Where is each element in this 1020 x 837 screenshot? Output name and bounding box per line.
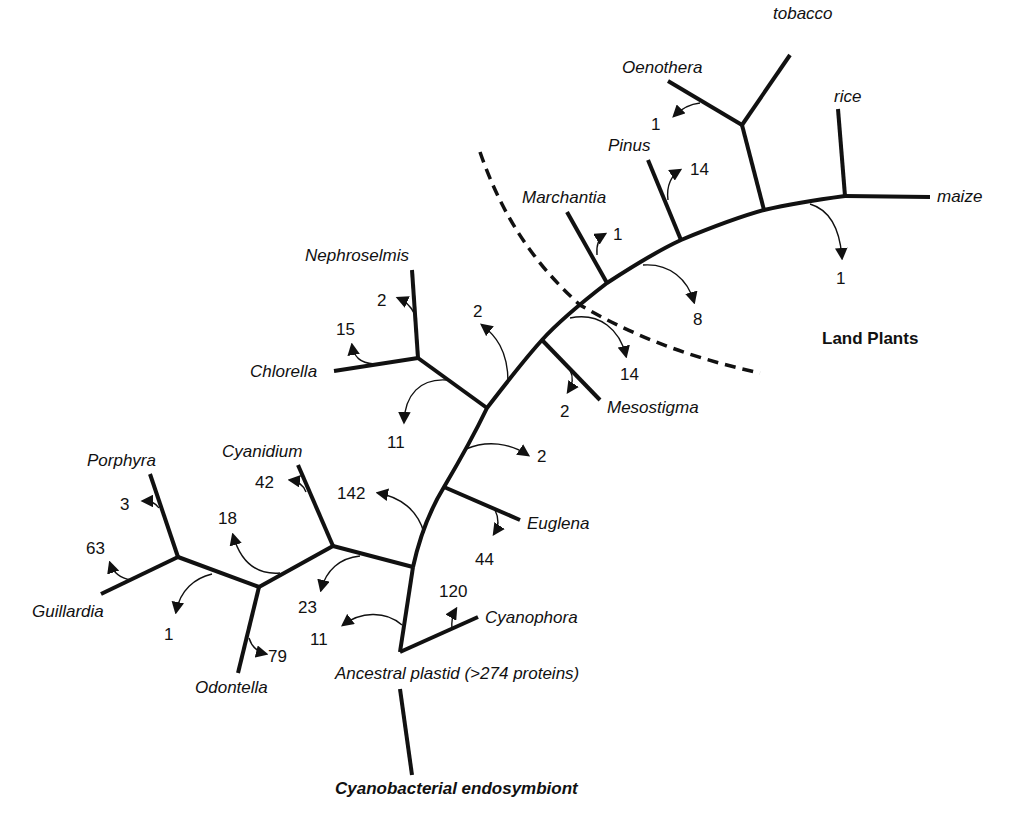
label-ancestral-plastid: Ancestral plastid (>274 proteins) [334, 664, 579, 683]
arrow-green-branch [482, 325, 508, 382]
count-guillardia: 63 [86, 539, 105, 558]
count-mesostigma: 2 [560, 402, 569, 421]
arrow-euglena-branch [466, 444, 528, 455]
branch-oenothera [668, 81, 742, 125]
phylogenetic-tree-figure: tobacco Oenothera rice maize Pinus March… [0, 0, 1020, 837]
count-chromist: 18 [218, 509, 237, 528]
label-guillardia: Guillardia [32, 602, 104, 621]
branch-mesostigma [542, 340, 600, 400]
arrow-guillardia [110, 563, 131, 580]
arrow-red-lineage [343, 614, 402, 625]
branch-porphyra [150, 474, 178, 557]
count-odontella: 79 [268, 647, 287, 666]
label-euglena: Euglena [527, 514, 589, 533]
label-oenothera: Oenothera [622, 58, 702, 77]
label-cyanidium: Cyanidium [222, 442, 302, 461]
arrow-porphyra [143, 501, 159, 508]
branch-red-2 [259, 546, 333, 587]
count-cyanophora: 120 [439, 582, 467, 601]
arrow-nephroselmis [398, 298, 414, 313]
label-chlorella: Chlorella [250, 362, 317, 381]
label-odontella: Odontella [195, 678, 268, 697]
count-euglena-branch: 2 [537, 447, 546, 466]
count-land-plants: 14 [620, 365, 639, 384]
branch-rice [838, 109, 845, 196]
branch-maize [845, 196, 930, 197]
count-chlorophyte: 11 [387, 433, 405, 452]
branch-odontella [238, 587, 259, 673]
arrow-land-plants [570, 317, 626, 356]
arrow-red-internal [321, 556, 360, 590]
count-porphyra: 3 [120, 495, 129, 514]
count-cyanidium: 42 [255, 473, 274, 492]
branch-chlorella [334, 358, 418, 371]
arrow-odontella [249, 638, 266, 654]
branch-cyanophora [400, 617, 478, 652]
count-chlorella: 15 [336, 320, 355, 339]
label-nephroselmis: Nephroselmis [305, 246, 409, 265]
branch-nephroselmis [412, 270, 418, 358]
arrow-euglena [494, 510, 498, 534]
count-euglena: 44 [475, 550, 494, 569]
root-branch [400, 689, 412, 775]
arrow-porphyra-guillardia [176, 574, 212, 612]
label-mesostigma: Mesostigma [607, 398, 699, 417]
arrow-chromist [233, 535, 280, 573]
label-tobacco: tobacco [773, 4, 833, 23]
arrow-maize-rice [810, 204, 842, 258]
arrow-seed-plants [643, 265, 694, 302]
label-porphyra: Porphyra [87, 451, 156, 470]
count-seed-plants: 8 [693, 310, 702, 329]
arrow-chlorophyte [404, 380, 447, 422]
label-cyanobacterial-endosymbiont: Cyanobacterial endosymbiont [335, 779, 579, 798]
label-cyanophora: Cyanophora [485, 608, 578, 627]
count-142: 142 [337, 484, 365, 503]
count-nephroselmis: 2 [377, 291, 386, 310]
branch-red-1 [333, 546, 413, 567]
label-maize: maize [937, 187, 982, 206]
branch-dicots [742, 125, 764, 210]
label-pinus: Pinus [608, 136, 651, 155]
branch-cyanidium [298, 465, 333, 546]
label-marchantia: Marchantia [522, 188, 606, 207]
taxon-labels: tobacco Oenothera rice maize Pinus March… [32, 4, 982, 697]
branch-chlorophyte [418, 358, 487, 408]
arrow-mesostigma [568, 370, 572, 392]
arrow-marchantia [597, 234, 605, 255]
count-marchantia: 1 [613, 225, 622, 244]
count-red-lineage: 11 [310, 630, 328, 649]
label-rice: rice [834, 87, 861, 106]
count-pinus: 14 [690, 160, 709, 179]
tree-svg: tobacco Oenothera rice maize Pinus March… [0, 0, 1020, 837]
arrow-chlorella [352, 345, 374, 364]
label-land-plants: Land Plants [822, 329, 918, 348]
branch-guillardia [101, 557, 178, 594]
arrow-oenothera [674, 103, 700, 116]
count-red-internal: 23 [298, 598, 317, 617]
count-oenothera: 1 [651, 115, 660, 134]
arrow-pinus [668, 170, 680, 200]
branch-euglena [444, 487, 520, 520]
branch-tobacco [742, 55, 790, 125]
backbone-segment [400, 567, 413, 652]
arrow-142 [378, 493, 424, 533]
branch-marchantia [567, 212, 607, 283]
count-maize-rice: 1 [836, 269, 845, 288]
branch-pinus [648, 160, 681, 240]
count-green-branch: 2 [473, 302, 482, 321]
count-porphyra-guillardia: 1 [164, 625, 173, 644]
